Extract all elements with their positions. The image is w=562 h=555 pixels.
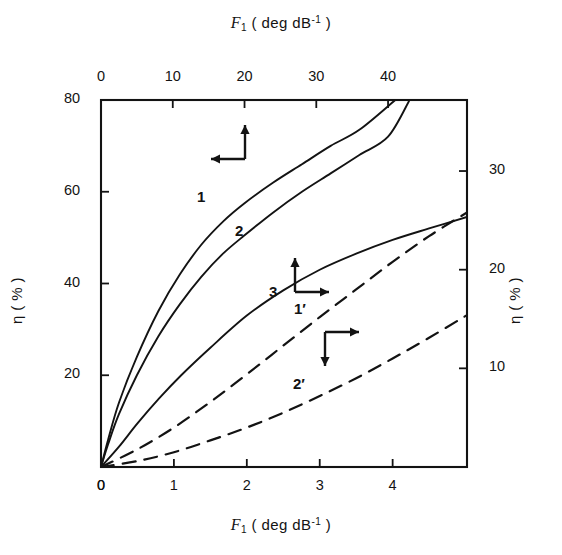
- tick-label-top-20: 20: [205, 68, 285, 84]
- upper-left-axis-pointer-up-arrow-icon-head: [240, 125, 249, 134]
- tick-label-bottom-3: 3: [280, 477, 360, 493]
- tick-label-origin: 0: [61, 477, 141, 493]
- curve-label-1prime: 1′: [294, 300, 306, 317]
- tick-label-top-0: 0: [61, 68, 141, 84]
- curve-3-axis-pointer-right-arrow-icon-head: [320, 287, 329, 296]
- tick-label-left-60: 60: [32, 182, 112, 198]
- upper-left-axis-pointer-left-arrow-icon-head: [211, 154, 220, 163]
- bottom-axis-unit-close: ): [321, 516, 331, 533]
- tick-label-bottom-2: 2: [207, 477, 287, 493]
- left-axis-title: η ( % ): [8, 261, 25, 341]
- tick-label-left-40: 40: [32, 274, 112, 290]
- top-axis-unit-open: ( deg dB: [247, 14, 311, 31]
- top-axis-superscript: -1: [311, 14, 321, 25]
- top-axis-symbol: F: [231, 14, 241, 31]
- right-axis-unit: ( % ): [506, 277, 523, 315]
- tick-label-right-10: 10: [457, 358, 537, 374]
- tick-label-bottom-1: 1: [134, 477, 214, 493]
- bottom-axis-title: F1 ( deg dB-1 ): [0, 516, 562, 535]
- tick-label-left-80: 80: [32, 90, 112, 106]
- left-axis-unit: ( % ): [8, 277, 25, 315]
- bottom-axis-superscript: -1: [311, 516, 321, 527]
- left-axis-symbol: η: [8, 315, 25, 324]
- curve-2′: [101, 315, 467, 467]
- curve-label-2: 2: [235, 222, 243, 239]
- curve-label-2prime: 2′: [293, 375, 305, 392]
- curve-3-axis-pointer-up-arrow-icon-head: [290, 258, 299, 267]
- tick-label-left-20: 20: [32, 365, 112, 381]
- tick-label-right-30: 30: [457, 161, 537, 177]
- data-curves: [101, 100, 467, 467]
- curve-label-3: 3: [269, 283, 277, 300]
- figure-container: F1 ( deg dB-1 ) F1 ( deg dB-1 ) η ( % ) …: [0, 0, 562, 555]
- dashed-curves-axis-pointer-down-arrow-icon-head: [320, 357, 329, 366]
- plot-frame: [101, 100, 467, 467]
- curve-1: [101, 100, 395, 467]
- top-axis-title: F1 ( deg dB-1 ): [0, 14, 562, 33]
- tick-label-bottom-4: 4: [353, 477, 433, 493]
- axis-ticks: [101, 100, 467, 467]
- plot-frame-rect: [101, 100, 467, 467]
- curve-label-1: 1: [197, 188, 205, 205]
- tick-label-top-10: 10: [133, 68, 213, 84]
- tick-label-top-30: 30: [276, 68, 356, 84]
- top-axis-unit-close: ): [321, 14, 331, 31]
- bottom-axis-unit-open: ( deg dB: [247, 516, 311, 533]
- tick-label-top-40: 40: [348, 68, 428, 84]
- tick-label-right-20: 20: [457, 260, 537, 276]
- right-axis-symbol: η: [506, 315, 523, 324]
- dashed-curves-axis-pointer-right-arrow-icon-head: [350, 327, 359, 336]
- bottom-axis-symbol: F: [231, 516, 241, 533]
